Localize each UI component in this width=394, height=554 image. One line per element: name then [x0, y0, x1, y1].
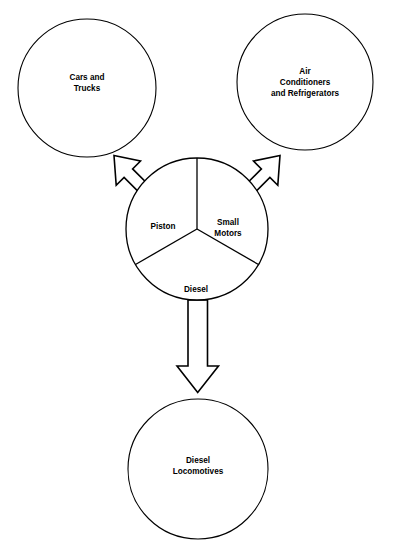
- node-label-cars-and-trucks-line1: Cars and: [69, 73, 104, 82]
- arrow-down-icon: [177, 300, 219, 393]
- node-label-diesel-locomotives-line2: Locomotives: [173, 467, 224, 476]
- node-label-air-conditioners-line2: Conditioners: [280, 78, 331, 87]
- pie-slice-label-piston: Piston: [150, 222, 175, 231]
- pie-slice-label-small-motors-line2: Motors: [214, 229, 242, 238]
- diagram-canvas: Cars and Trucks Air Conditioners and Ref…: [0, 0, 394, 554]
- arrow-to-diesel-locomotives: [177, 300, 219, 393]
- node-cars-and-trucks[interactable]: Cars and Trucks: [18, 19, 156, 157]
- node-label-cars-and-trucks-line2: Trucks: [74, 84, 101, 93]
- node-air-conditioners-and-refrigerators[interactable]: Air Conditioners and Refrigerators: [237, 14, 373, 150]
- node-label-air-conditioners-line1: Air: [299, 67, 311, 76]
- pie-slice-label-diesel: Diesel: [184, 285, 208, 294]
- pie-slice-label-small-motors-line1: Small: [217, 218, 239, 227]
- concept-diagram: Cars and Trucks Air Conditioners and Ref…: [0, 0, 394, 554]
- node-diesel-locomotives[interactable]: Diesel Locomotives: [128, 399, 268, 539]
- node-label-air-conditioners-line3: and Refrigerators: [271, 89, 340, 98]
- node-label-diesel-locomotives-line1: Diesel: [186, 456, 210, 465]
- engine-pie-chart[interactable]: Piston Small Motors Diesel: [126, 158, 268, 300]
